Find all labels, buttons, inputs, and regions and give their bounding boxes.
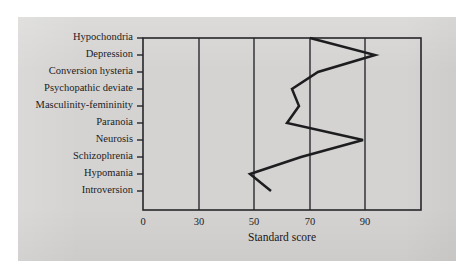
profile-data-line [250, 38, 375, 191]
mmpi-profile-chart: Hypochondria Depression Conversion hyste… [0, 0, 475, 277]
plot-frame [143, 38, 421, 210]
ylabel-conversion-hysteria: Conversion hysteria [49, 65, 134, 76]
xtick-label-30: 30 [194, 216, 205, 227]
ylabel-masculinity-femininity: Masculinity-femininity [36, 99, 134, 110]
ylabel-paranoia: Paranoia [96, 116, 133, 127]
y-axis-labels: Hypochondria Depression Conversion hyste… [36, 31, 134, 195]
x-axis-title: Standard score [248, 231, 316, 243]
ylabel-neurosis: Neurosis [96, 133, 133, 144]
ylabel-introversion: Introversion [82, 184, 134, 195]
ylabel-schizophrenia: Schizophrenia [73, 150, 133, 161]
xtick-label-70: 70 [305, 216, 316, 227]
ylabel-depression: Depression [86, 48, 134, 59]
xtick-label-50: 50 [249, 216, 260, 227]
y-axis-ticks [137, 38, 143, 191]
figure-root: Hypochondria Depression Conversion hyste… [0, 0, 475, 277]
x-axis-tick-labels: 0 30 50 70 90 [140, 216, 370, 227]
gridlines [199, 38, 365, 210]
ylabel-psychopathic-deviate: Psychopathic deviate [44, 82, 133, 93]
xtick-label-0: 0 [140, 216, 145, 227]
chart-plot-area: Hypochondria Depression Conversion hyste… [0, 0, 475, 277]
ylabel-hypochondria: Hypochondria [73, 31, 133, 42]
ylabel-hypomania: Hypomania [84, 167, 133, 178]
xtick-label-90: 90 [360, 216, 371, 227]
